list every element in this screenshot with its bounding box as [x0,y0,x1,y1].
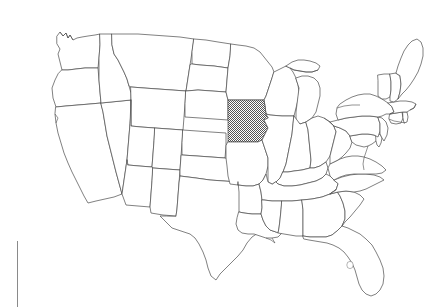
vertical-rule-artifact [17,241,18,307]
state-missouri [226,140,268,186]
state-kansas [182,130,226,158]
state-arkansas [238,182,262,214]
us-state-outline-map [0,0,428,307]
state-vermont [378,74,391,99]
state-colorado [152,128,183,170]
state-new-mexico [150,168,180,216]
state-nebraska [185,90,228,120]
state-south-dakota [186,64,228,92]
map-figure: Map of the contiguous United States Stat… [0,0,428,307]
state-iowa-highlighted [228,100,268,142]
state-north-dakota [192,39,231,68]
lake-okeechobee [347,261,353,268]
state-alabama [278,200,303,236]
state-arizona [122,160,153,207]
state-wyoming [131,87,186,130]
state-rhode-island [403,112,408,123]
state-washington [57,32,100,70]
state-oregon [52,68,101,107]
